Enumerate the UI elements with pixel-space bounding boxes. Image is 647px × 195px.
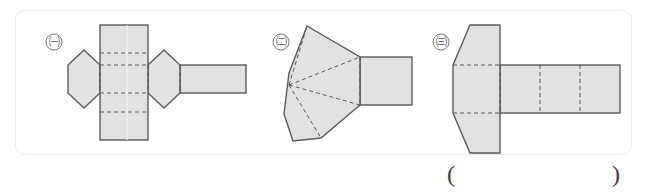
net-3-group: ㈢ bbox=[433, 25, 620, 153]
net-2-right-rectangle bbox=[360, 57, 412, 105]
answer-close-paren: ) bbox=[612, 158, 620, 190]
net-3-label-text: ㈢ bbox=[436, 36, 447, 49]
net-1-vertical-strip bbox=[100, 25, 148, 140]
net-1-right-hexagon bbox=[148, 50, 180, 108]
nets-illustration: ㈠ ㈡ bbox=[15, 10, 632, 155]
answer-open-paren: ( bbox=[447, 158, 455, 190]
net-1-label-text: ㈠ bbox=[49, 36, 60, 49]
net-3-label: ㈢ bbox=[433, 34, 449, 50]
net-2-label-text: ㈡ bbox=[276, 36, 287, 49]
net-1-group: ㈠ bbox=[46, 25, 246, 140]
answer-row: ( ) bbox=[0, 158, 647, 195]
net-1-label: ㈠ bbox=[46, 34, 62, 50]
net-2-label: ㈡ bbox=[273, 34, 289, 50]
answer-blank[interactable] bbox=[462, 164, 610, 188]
net-1-left-hexagon bbox=[68, 50, 100, 108]
net-2-group: ㈡ bbox=[273, 26, 412, 141]
worksheet-figure-panel: ㈠ ㈡ bbox=[0, 0, 647, 195]
net-2-fan-body bbox=[284, 26, 360, 141]
net-3-horizontal-strip bbox=[500, 65, 620, 113]
net-3-left-hexagon bbox=[453, 25, 500, 153]
net-1-right-rectangle bbox=[180, 65, 246, 93]
